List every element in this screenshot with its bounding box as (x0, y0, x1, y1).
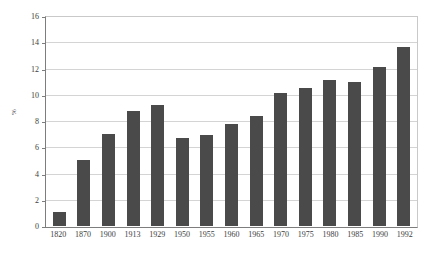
chart-figure: % 0246810121416 182018701900191319291950… (0, 0, 428, 262)
y-axis-tick-label: 10 (31, 92, 39, 100)
bar (225, 124, 238, 226)
y-axis-tick-mark (42, 43, 46, 44)
bar-slot (47, 18, 72, 226)
x-axis-tick-label: 1913 (120, 231, 145, 239)
x-axis-tick-label: 1992 (392, 231, 417, 239)
y-axis-tick-mark (42, 148, 46, 149)
bar (250, 116, 263, 227)
y-axis-tick-label: 6 (35, 144, 39, 152)
bar (323, 80, 336, 226)
bar-slot (121, 18, 146, 226)
x-axis-tick-label: 1985 (343, 231, 368, 239)
y-axis-tick-label: 12 (31, 66, 39, 74)
bar (299, 88, 312, 226)
x-axis-tick-label: 1929 (145, 231, 170, 239)
y-axis-tick-mark (42, 96, 46, 97)
y-axis-tick-mark (42, 122, 46, 123)
bar (102, 134, 115, 226)
x-axis-tick-label: 1970 (269, 231, 294, 239)
bar-slot (219, 18, 244, 226)
bar-slot (170, 18, 195, 226)
x-axis-tick-label: 1950 (170, 231, 195, 239)
bar (151, 105, 164, 226)
bar (127, 111, 140, 226)
y-axis-tick-label: 2 (35, 197, 39, 205)
y-axis-tick-mark (42, 175, 46, 176)
x-axis-tick-label: 1870 (71, 231, 96, 239)
y-axis-tick-mark (42, 227, 46, 228)
bar (200, 135, 213, 226)
bar (373, 67, 386, 226)
x-axis-tick-label: 1990 (368, 231, 393, 239)
bar-slot (318, 18, 343, 226)
bar-slot (195, 18, 220, 226)
bar (397, 47, 410, 226)
x-axis-tick-label: 1965 (244, 231, 269, 239)
y-axis-tick-mark (42, 17, 46, 18)
x-axis-tick-label: 1960 (219, 231, 244, 239)
x-axis-tick-label: 1975 (293, 231, 318, 239)
bar (53, 212, 66, 226)
bar-slot (268, 18, 293, 226)
bar (274, 93, 287, 226)
y-axis-tick-label: 14 (31, 39, 39, 47)
x-axis-tick-label: 1955 (194, 231, 219, 239)
y-axis-tick-label: 8 (35, 118, 39, 126)
bar (348, 82, 361, 226)
bar-slot (145, 18, 170, 226)
bar-slot (72, 18, 97, 226)
plot-area: 0246810121416 (45, 16, 418, 228)
bar-slot (293, 18, 318, 226)
bar-series (47, 18, 416, 226)
bar-slot (391, 18, 416, 226)
bar-slot (342, 18, 367, 226)
y-axis-tick-mark (42, 70, 46, 71)
y-axis-title: % (10, 100, 18, 124)
bar-slot (367, 18, 392, 226)
y-axis-tick-label: 4 (35, 171, 39, 179)
bar-slot (96, 18, 121, 226)
y-axis-tick-label: 16 (31, 13, 39, 21)
x-axis-tick-labels: 1820187019001913192919501955196019651970… (46, 231, 417, 239)
x-axis-tick-label: 1900 (95, 231, 120, 239)
x-axis-tick-label: 1980 (318, 231, 343, 239)
x-axis-tick-label: 1820 (46, 231, 71, 239)
bar-slot (244, 18, 269, 226)
y-axis-tick-mark (42, 201, 46, 202)
y-axis-tick-label: 0 (35, 223, 39, 231)
bar (176, 138, 189, 226)
bar (77, 160, 90, 226)
